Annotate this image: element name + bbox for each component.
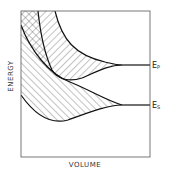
es-label: ES (152, 101, 160, 110)
ep-label: EP (152, 61, 160, 70)
energy-volume-diagram: EP ES VOLUME ENERGY (0, 0, 171, 176)
y-axis-label: ENERGY (7, 60, 15, 92)
x-axis-label: VOLUME (69, 161, 101, 169)
